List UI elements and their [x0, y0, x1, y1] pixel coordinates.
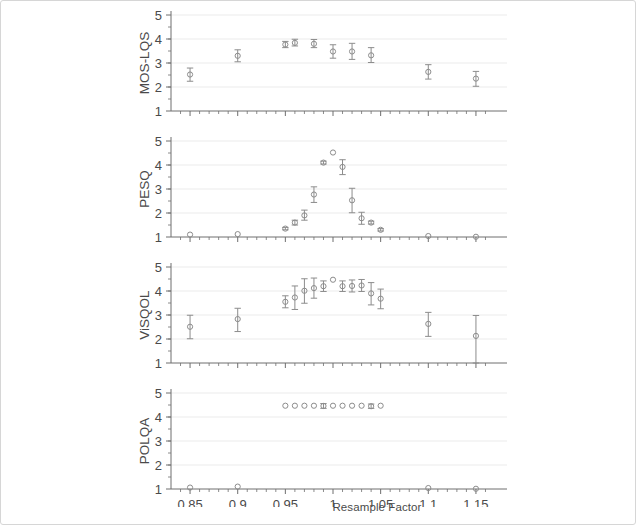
data-point [378, 403, 383, 408]
data-point [292, 403, 297, 408]
panel-mos-lqs: 12345MOS-LQS [1, 3, 636, 129]
panel-y-axis-label: POLQA [137, 418, 152, 465]
data-series [187, 403, 478, 491]
y-tick-label: 1 [155, 230, 162, 245]
y-tick-label: 2 [155, 458, 162, 473]
y-tick-label: 3 [155, 56, 162, 71]
panel-polqa: 123450.850.90.9511.051.11.15POLQA [1, 381, 636, 507]
y-tick-label: 4 [155, 410, 162, 425]
y-tick-label: 3 [155, 308, 162, 323]
panel-visqol-plot: 12345ViSQOL [1, 255, 636, 381]
y-tick-label: 3 [155, 182, 162, 197]
y-tick-label: 5 [155, 134, 162, 149]
data-point [283, 403, 288, 408]
data-point [235, 232, 240, 237]
panel-polqa-plot: 123450.850.90.9511.051.11.15POLQA [1, 381, 636, 507]
panel-pesq: 12345PESQ [1, 129, 636, 255]
data-point [359, 403, 364, 408]
data-point [330, 403, 335, 408]
y-tick-label: 3 [155, 434, 162, 449]
x-axis-title: Resample Factor [119, 501, 635, 513]
figure-container: 12345MOS-LQS 12345PESQ 12345ViSQOL 12345… [0, 0, 636, 525]
data-point [330, 150, 335, 155]
data-series [187, 277, 479, 363]
y-tick-label: 5 [155, 8, 162, 23]
panel-mos-lqs-plot: 12345MOS-LQS [1, 3, 636, 129]
y-tick-label: 5 [155, 386, 162, 401]
data-point [349, 403, 354, 408]
data-series [187, 150, 478, 239]
y-tick-label: 1 [155, 356, 162, 371]
y-tick-label: 4 [155, 158, 162, 173]
y-tick-label: 1 [155, 104, 162, 119]
panel-y-axis-label: ViSQOL [137, 290, 152, 340]
y-tick-label: 4 [155, 284, 162, 299]
data-point [302, 403, 307, 408]
y-tick-label: 1 [155, 482, 162, 497]
y-tick-label: 2 [155, 206, 162, 221]
panel-y-axis-label: MOS-LQS [137, 32, 152, 94]
data-point [330, 277, 335, 282]
data-point [235, 484, 240, 489]
panel-visqol: 12345ViSQOL [1, 255, 636, 381]
data-point [311, 403, 316, 408]
y-tick-label: 4 [155, 32, 162, 47]
panel-y-axis-label: PESQ [137, 170, 152, 208]
y-tick-label: 5 [155, 260, 162, 275]
data-point [187, 232, 192, 237]
data-point [340, 403, 345, 408]
y-tick-label: 2 [155, 80, 162, 95]
panel-pesq-plot: 12345PESQ [1, 129, 636, 255]
y-tick-label: 2 [155, 332, 162, 347]
